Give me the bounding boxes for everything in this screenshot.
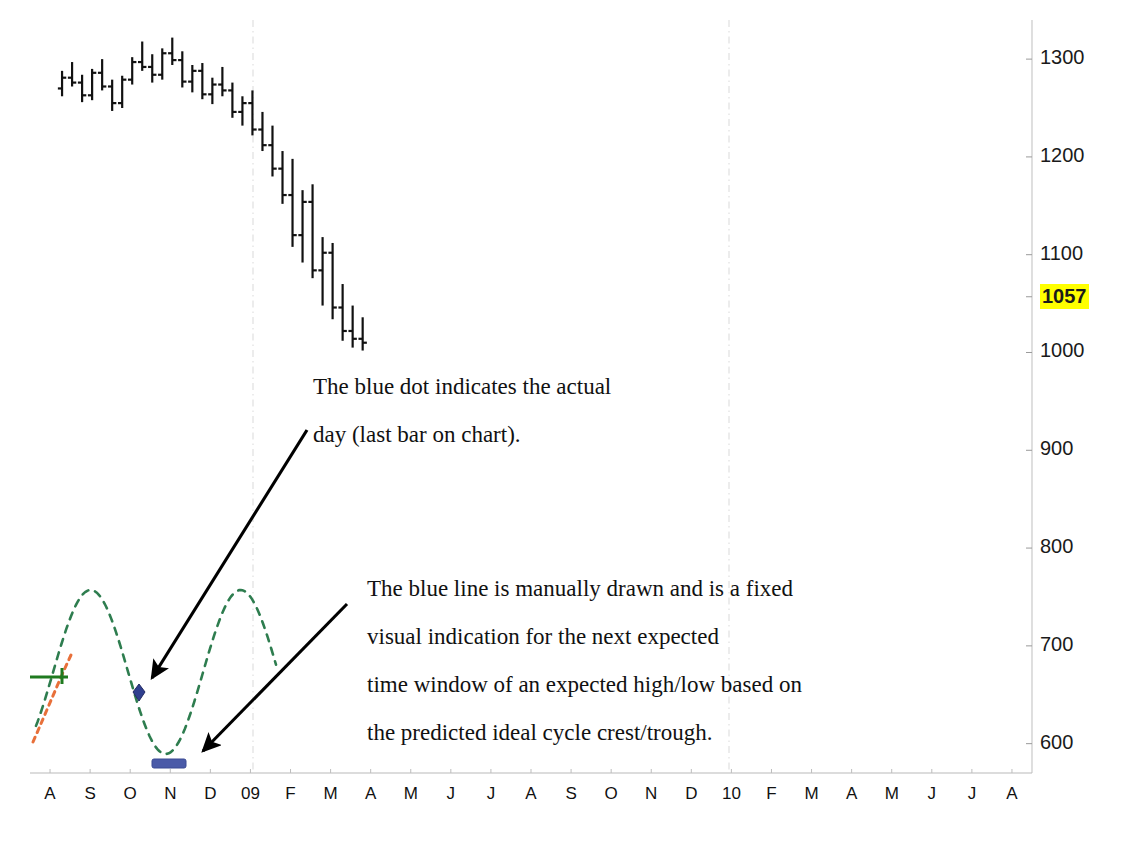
month-tick-1: S [84,784,95,804]
month-tick-22: J [928,784,937,804]
blue-line-annotation-line-3: the predicted ideal cycle crest/trough. [367,715,712,750]
price-tick-1300: 1300 [1040,46,1085,69]
month-tick-20: A [846,784,857,804]
month-tick-24: A [1006,784,1017,804]
arrow-to-blue-dot [152,430,307,678]
arrow-to-blue-line [203,604,347,751]
chart-canvas: 13001200110010571000900800700600 ASOND09… [0,0,1126,843]
month-tick-17: 10 [722,784,741,804]
month-tick-10: J [447,784,456,804]
month-tick-8: A [365,784,376,804]
price-tick-800: 800 [1040,535,1073,558]
month-tick-18: F [766,784,776,804]
month-tick-14: O [605,784,618,804]
price-tick-1200: 1200 [1040,144,1085,167]
month-tick-5: 09 [241,784,260,804]
month-tick-4: D [204,784,216,804]
month-tick-7: M [324,784,338,804]
annotation-arrows [152,430,347,751]
month-tick-16: D [685,784,697,804]
month-tick-6: F [285,784,295,804]
month-tick-19: M [804,784,818,804]
price-tick-700: 700 [1040,633,1073,656]
month-tick-9: M [404,784,418,804]
price-tick-900: 900 [1040,437,1073,460]
ohlc-bar-series [58,38,367,351]
price-tick-600: 600 [1040,731,1073,754]
month-tick-23: J [968,784,977,804]
price-tick-1100: 1100 [1040,242,1083,265]
month-tick-13: S [565,784,576,804]
month-tick-15: N [645,784,657,804]
price-tick-1057: 1057 [1040,284,1089,309]
month-tick-21: M [885,784,899,804]
y-axis-ticks [1026,59,1032,744]
left-trend-marker [33,655,71,742]
month-tick-12: A [525,784,536,804]
blue-line-annotation-line-0: The blue line is manually drawn and is a… [367,571,793,606]
month-tick-2: O [124,784,137,804]
month-tick-0: A [44,784,55,804]
month-tick-11: J [487,784,496,804]
price-tick-1000: 1000 [1040,339,1085,362]
blue-dot-annotation-line-0: The blue dot indicates the actual [313,369,611,404]
blue-line-annotation-line-1: visual indication for the next expected [367,619,719,654]
blue-line-annotation-line-2: time window of an expected high/low base… [367,667,802,702]
blue-dot-annotation-line-1: day (last bar on chart). [313,417,521,452]
month-tick-3: N [164,784,176,804]
expected-window-bar [152,759,186,768]
